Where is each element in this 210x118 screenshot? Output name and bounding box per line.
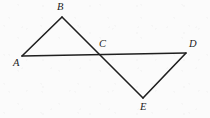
vertex-label-A: A — [13, 58, 19, 69]
segment-BE — [62, 17, 143, 98]
vertex-label-B: B — [57, 2, 63, 13]
segment-AD — [22, 53, 186, 56]
figure-canvas — [0, 0, 210, 118]
segment-AB — [22, 17, 62, 56]
segment-ED — [143, 53, 186, 98]
vertex-label-D: D — [189, 39, 197, 50]
vertex-label-E: E — [140, 102, 146, 113]
geometry-figure: A B C D E — [0, 0, 210, 118]
vertex-label-C: C — [99, 39, 106, 50]
